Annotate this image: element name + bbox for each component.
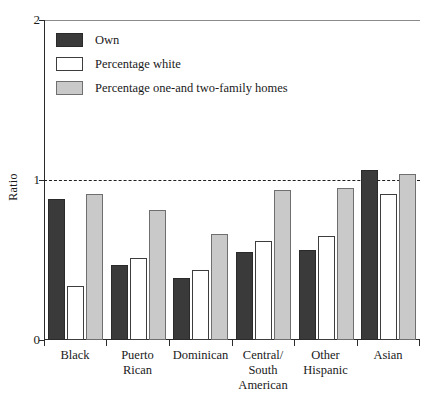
bar [337, 188, 354, 340]
legend-label-own: Own [95, 33, 119, 48]
bar [318, 236, 335, 340]
bar [255, 241, 272, 340]
y-tick-label-0: 0 [22, 333, 40, 346]
x-label-puerto-rican: Puerto Rican [106, 348, 169, 378]
x-label-central-south-american: Central/ South American [232, 348, 294, 393]
x-group-separator [44, 340, 45, 346]
y-tick-label-1: 1 [22, 173, 40, 186]
bar [274, 190, 291, 340]
bar-chart: Ratio 2 1 0 Black Puerto Rican Dominican… [0, 0, 424, 401]
legend: Own Percentage white Percentage one-and … [56, 28, 326, 100]
legend-item-own: Own [56, 28, 326, 52]
x-label-other-hispanic: Other Hispanic [292, 348, 359, 378]
legend-swatch-gray-icon [56, 81, 83, 95]
bar [399, 174, 416, 340]
x-group-separator [169, 340, 170, 346]
bar [173, 278, 190, 340]
bar [149, 210, 166, 340]
legend-item-percentage-one-two-family: Percentage one-and two-family homes [56, 76, 326, 100]
x-group-separator [106, 340, 107, 346]
x-label-asian: Asian [357, 348, 419, 363]
bar [111, 265, 128, 340]
x-group-separator [232, 340, 233, 346]
legend-swatch-own-icon [56, 33, 83, 47]
x-label-black: Black [44, 348, 106, 363]
legend-item-percentage-white: Percentage white [56, 52, 326, 76]
bar [192, 270, 209, 340]
bar [361, 170, 378, 340]
x-axis-tick-labels: Black Puerto Rican Dominican Central/ So… [44, 348, 420, 400]
x-group-separator [419, 340, 420, 346]
bar [48, 199, 65, 340]
y-tick-label-2: 2 [22, 13, 40, 26]
x-group-separator [294, 340, 295, 346]
bar [299, 250, 316, 340]
legend-swatch-white-icon [56, 57, 83, 71]
bar [130, 258, 147, 340]
bar [67, 286, 84, 340]
bar [236, 252, 253, 340]
y-axis-tick-labels: 2 1 0 [18, 0, 40, 401]
bar [380, 194, 397, 340]
legend-label-percentage-white: Percentage white [95, 57, 181, 72]
x-label-dominican: Dominican [165, 348, 236, 363]
legend-label-percentage-one-two-family: Percentage one-and two-family homes [95, 81, 288, 96]
x-group-separator [357, 340, 358, 346]
bar [86, 194, 103, 340]
bar [211, 234, 228, 340]
